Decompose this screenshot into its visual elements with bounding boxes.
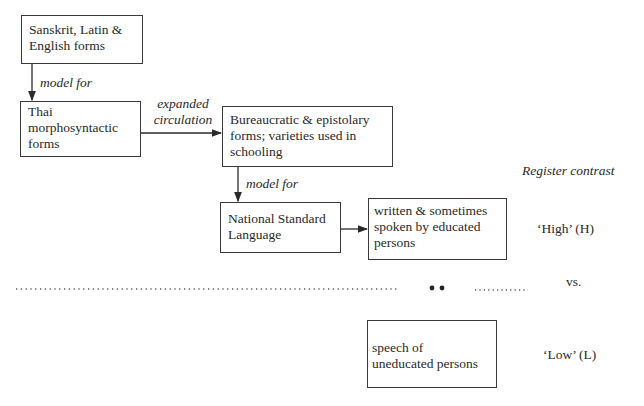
box-thai-line-3: forms (28, 136, 140, 152)
box-national-standard: National Standard Language (220, 202, 341, 253)
edge-label-model-for-2: model for (246, 176, 298, 192)
register-vs-label: vs. (566, 274, 581, 290)
box-bureaucratic-line-1: Bureaucratic & epistolary (230, 112, 392, 128)
box-national-line-1: National Standard (228, 211, 340, 227)
box-national-line-2: Language (228, 227, 340, 243)
box-thai-line-1: Thai (28, 104, 140, 120)
bullet-dot-2 (440, 286, 445, 291)
box-thai-line-2: morphosyntactic (28, 120, 140, 136)
box-speech-line-1: speech of (372, 340, 496, 356)
register-low-label: ‘Low’ (L) (543, 347, 596, 363)
register-high-label: ‘High’ (H) (537, 221, 594, 237)
box-sources-line-1: Sanskrit, Latin & (29, 22, 142, 38)
box-sources: Sanskrit, Latin & English forms (21, 15, 143, 64)
box-bureaucratic-line-2: forms; varieties used in (230, 128, 392, 144)
box-speech: speech of uneducated persons (367, 320, 497, 388)
box-bureaucratic-line-3: schooling (230, 144, 392, 160)
box-written-line-2: spoken by educated (374, 219, 506, 235)
edge-label-expanded-line-2: circulation (147, 112, 219, 128)
box-sources-line-2: English forms (29, 38, 142, 54)
edge-label-expanded-line-1: expanded (147, 96, 219, 112)
edge-label-model-for-1: model for (40, 75, 92, 91)
bullet-dot-1 (430, 286, 435, 291)
edge-label-expanded-circulation: expanded circulation (147, 96, 219, 128)
box-speech-line-2: uneducated persons (372, 356, 496, 372)
box-thai: Thai morphosyntactic forms (20, 101, 141, 157)
box-written-line-1: written & sometimes (374, 203, 506, 219)
box-bureaucratic: Bureaucratic & epistolary forms; varieti… (222, 106, 393, 167)
register-contrast-title: Register contrast (522, 163, 615, 179)
box-written-line-3: persons (374, 235, 506, 251)
box-written: written & sometimes spoken by educated p… (368, 198, 507, 260)
